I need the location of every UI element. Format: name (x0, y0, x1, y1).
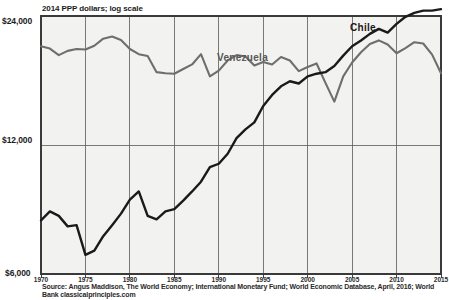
x-axis-tick-label: 2010 (389, 276, 403, 283)
y-axis-tick-label-top: $24,000 (2, 16, 32, 26)
series-label-venezuela: Venezuela (217, 52, 268, 63)
y-axis-tick-label-bottom: $6,000 (5, 268, 30, 278)
x-axis-tick-label: 2015 (434, 276, 448, 283)
x-axis-tick-label: 1990 (212, 276, 226, 283)
chart-subtitle: 2014 PPP dollars; log scale (42, 4, 143, 13)
x-axis-tick-label: 2005 (345, 276, 359, 283)
x-axis-tick-label: 1975 (78, 276, 92, 283)
x-axis-tick-label: 1985 (167, 276, 181, 283)
x-axis-tick-label: 1980 (123, 276, 137, 283)
series-label-chile: Chile (350, 22, 376, 33)
x-axis-tick-label: 1995 (256, 276, 270, 283)
x-axis-tick-label: 2000 (300, 276, 314, 283)
x-axis-tick-label: 1970 (34, 276, 48, 283)
chart-plot-area (0, 0, 449, 300)
chart-figure: $24,000 $12,000 $6,000 2014 PPP dollars;… (0, 0, 449, 300)
chart-source-note: Source: Angus Maddison, The World Econom… (42, 283, 446, 300)
y-axis-tick-label-middle: $12,000 (2, 135, 32, 145)
